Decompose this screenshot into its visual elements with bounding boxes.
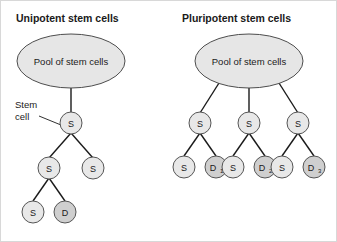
right-node-leaf2-s-label: S — [230, 163, 236, 173]
right-node-branch2-label: S — [246, 119, 252, 129]
left-node-gen3-right-label: D — [62, 208, 69, 218]
left-node-root-label: S — [68, 119, 74, 129]
right-edge-branch1-to-leaf-d — [200, 133, 216, 156]
left-node-gen2-right-label: S — [90, 164, 96, 174]
right-node-leaf3-s-label: S — [279, 163, 285, 173]
stem-cell-diagram: Unipotent stem cells Pool of stem cells … — [1, 1, 337, 242]
left-pool-label: Pool of stem cells — [34, 56, 109, 67]
right-edge-branch3-to-leaf-s — [282, 133, 298, 156]
right-panel-title: Pluripotent stem cells — [182, 12, 291, 24]
right-node-branch1-label: S — [197, 119, 203, 129]
right-edge-pool-to-branch1 — [200, 83, 219, 113]
right-node-branch3-label: S — [295, 119, 301, 129]
right-pool-label: Pool of stem cells — [212, 56, 287, 67]
stem-cell-callout-line1: Stem — [15, 99, 37, 110]
figure-container: Unipotent stem cells Pool of stem cells … — [0, 0, 337, 242]
right-node-leaf1-d-label: D — [210, 163, 217, 173]
left-panel-title: Unipotent stem cells — [16, 12, 119, 24]
right-edge-branch2-to-leaf-d — [249, 133, 265, 156]
right-node-leaf2-d-label: D — [259, 163, 266, 173]
left-edge-gen2-to-gen3-left — [33, 178, 49, 201]
right-edge-pool-to-branch3 — [279, 83, 298, 113]
right-node-leaf3-d-label: D — [308, 163, 315, 173]
left-edge-root-to-gen2-left — [49, 133, 71, 158]
right-edge-branch3-to-leaf-d — [298, 133, 314, 156]
left-edge-root-to-gen2-right — [71, 133, 93, 158]
left-node-gen2-left-label: S — [46, 164, 52, 174]
stem-cell-leader-line — [39, 116, 61, 125]
right-edge-branch1-to-leaf-s — [184, 133, 200, 156]
left-node-gen3-left-label: S — [30, 208, 36, 218]
stem-cell-callout-line2: cell — [15, 111, 29, 122]
right-edge-branch2-to-leaf-s — [233, 133, 249, 156]
left-edge-gen2-to-gen3-right — [49, 178, 65, 201]
right-node-leaf1-s-label: S — [181, 163, 187, 173]
